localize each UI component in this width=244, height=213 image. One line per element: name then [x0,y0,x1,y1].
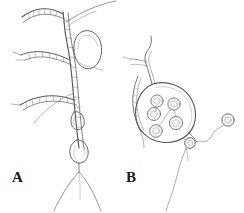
released-zoospore [222,114,234,126]
internal-spore-2 [148,108,161,121]
discharge-papilla [185,138,196,161]
left-rhizoid-strand [133,76,144,148]
panel-label-a: A [12,170,23,185]
panel-a-drawing [11,1,116,211]
apical-stalk-hypha [123,36,155,84]
flagellum [195,125,224,143]
basal-rhizoid-fork [54,163,101,211]
internal-spores [148,95,183,137]
zoosporangium-wall [136,83,197,147]
lower-left-beaded-branch [11,95,77,110]
internal-spore-5 [150,125,163,138]
lower-hypha-tail [166,148,186,211]
mid-left-beaded-branch [13,52,72,65]
panel-b-drawing [123,36,234,211]
upper-left-beaded-branch [22,9,65,23]
internal-spore-3 [168,98,180,110]
upper-right-thin-branch [66,1,116,26]
figure-root: A B [0,0,244,213]
upper-teardrop-swelling [71,112,84,130]
panel-label-b: B [126,170,136,185]
figure-drawing-canvas [0,0,244,213]
large-empty-oval-sac [74,31,103,70]
internal-spore-1 [151,95,163,107]
internal-spore-4 [169,116,182,129]
